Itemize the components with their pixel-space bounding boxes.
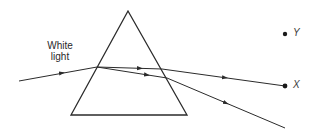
point-x-label: X xyxy=(293,79,300,90)
prism-dispersion-diagram: White light Y X xyxy=(0,0,314,134)
point-y-label: Y xyxy=(293,27,300,38)
white-light-label-line1: White xyxy=(38,40,82,51)
diagram-canvas xyxy=(0,0,314,134)
white-light-label: White light xyxy=(38,40,82,62)
white-light-label-line2: light xyxy=(38,51,82,62)
prism-triangle xyxy=(71,11,187,115)
lower-ray-outside xyxy=(167,78,285,128)
incident-ray xyxy=(19,67,97,81)
point-x-dot xyxy=(283,84,288,89)
point-y-dot xyxy=(283,32,287,36)
